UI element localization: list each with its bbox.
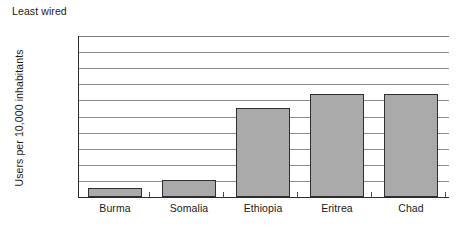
x-axis-tick bbox=[371, 192, 372, 198]
bar-slot bbox=[384, 36, 439, 197]
bar-chart-figure: Least wired Users per 10,000 inhabitants… bbox=[0, 0, 458, 236]
x-axis-labels: BurmaSomaliaEthiopiaEritreaChad bbox=[78, 202, 448, 222]
x-tick-label: Chad bbox=[374, 202, 448, 214]
bars-layer bbox=[78, 36, 448, 197]
x-tick-label: Ethiopia bbox=[226, 202, 300, 214]
bar-slot bbox=[236, 36, 291, 197]
x-tick-label: Burma bbox=[78, 202, 152, 214]
bar bbox=[310, 94, 365, 197]
x-tick-label: Eritrea bbox=[300, 202, 374, 214]
x-axis-tick bbox=[297, 192, 298, 198]
bar bbox=[236, 108, 291, 197]
bar bbox=[162, 180, 217, 197]
bar-slot bbox=[162, 36, 217, 197]
x-tick-label: Somalia bbox=[152, 202, 226, 214]
x-axis-tick bbox=[223, 192, 224, 198]
bar bbox=[88, 188, 143, 197]
x-axis-tick bbox=[149, 192, 150, 198]
bar-slot bbox=[88, 36, 143, 197]
x-axis-tick bbox=[445, 192, 446, 198]
bar bbox=[384, 94, 439, 197]
bar-slot bbox=[310, 36, 365, 197]
y-axis-title: Users per 10,000 inhabitants bbox=[13, 38, 25, 198]
chart-title: Least wired bbox=[12, 5, 67, 17]
